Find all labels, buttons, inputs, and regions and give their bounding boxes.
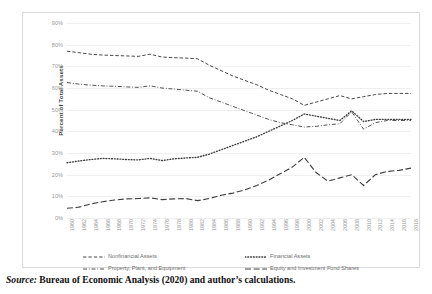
x-tick-label: 2000 [306,219,312,231]
source-label: Source: [6,274,37,285]
y-tick-label: 10% [37,193,63,199]
x-tick-label: 1994 [271,219,277,231]
x-tick-label: 1978 [176,219,182,231]
series-line [67,111,411,163]
x-tick-label: 2012 [377,219,383,231]
x-tick-label: 2018 [413,219,419,231]
source-caption: Source: Bureau of Economic Analysis (202… [6,274,295,285]
legend-label: Nonfinancial Assets [108,254,157,260]
series-lines [67,23,411,218]
legend-item[interactable]: Financial Assets [245,254,310,260]
x-tick-label: 1962 [81,219,87,231]
y-tick-label: 20% [37,172,63,178]
plot-area: Percent of Total Assets 90%80%70%60%50%4… [23,13,419,267]
y-axis-title: Percent of Total Assets [57,46,64,156]
x-tick-label: 1996 [283,219,289,231]
legend-label: Property, Plant, and Equipment [108,266,185,272]
x-tick-label: 1986 [223,219,229,231]
x-tick-label: 1992 [259,219,265,231]
legend-label: Equity and Investment Fund Shares [270,266,359,272]
x-tick-label: 1960 [69,219,75,231]
legend-swatch-icon [83,254,105,260]
y-tick-label: 40% [37,128,63,134]
legend-swatch-icon [83,266,105,272]
series-line [67,157,411,208]
x-tick-label: 1966 [105,219,111,231]
legend-label: Financial Assets [270,254,310,260]
x-axis-tick-labels: 1960196219641966196819701972197419761978… [67,219,411,253]
x-tick-label: 1974 [152,219,158,231]
x-tick-label: 1964 [93,219,99,231]
y-tick-label: 50% [37,107,63,113]
x-tick-label: 2010 [366,219,372,231]
legend-swatch-icon [245,254,267,260]
x-tick-label: 1988 [235,219,241,231]
y-tick-label: 90% [37,20,63,26]
x-tick-label: 1990 [247,219,253,231]
chart-figure: Percent of Total Assets 90%80%70%60%50%4… [22,12,420,268]
x-tick-label: 1984 [211,219,217,231]
series-line [67,51,411,105]
y-tick-label: 80% [37,42,63,48]
legend-swatch-icon [245,266,267,272]
x-tick-label: 1976 [164,219,170,231]
x-tick-label: 1972 [140,219,146,231]
legend-item[interactable]: Nonfinancial Assets [83,254,157,260]
legend-item[interactable]: Equity and Investment Fund Shares [245,266,359,272]
x-tick-label: 1980 [188,219,194,231]
y-tick-label: 30% [37,150,63,156]
x-tick-label: 1982 [199,219,205,231]
y-tick-label: 70% [37,63,63,69]
x-tick-label: 2016 [401,219,407,231]
legend-item[interactable]: Property, Plant, and Equipment [83,266,185,272]
y-tick-label: 60% [37,85,63,91]
x-tick-label: 1998 [294,219,300,231]
x-tick-label: 2014 [389,219,395,231]
x-tick-label: 1968 [116,219,122,231]
x-tick-label: 2006 [342,219,348,231]
x-tick-label: 2002 [318,219,324,231]
x-tick-label: 2004 [330,219,336,231]
x-tick-label: 2008 [354,219,360,231]
y-tick-label: 0% [37,215,63,221]
x-tick-label: 1970 [128,219,134,231]
series-line [67,83,411,130]
source-text: Bureau of Economic Analysis (2020) and a… [39,274,295,285]
